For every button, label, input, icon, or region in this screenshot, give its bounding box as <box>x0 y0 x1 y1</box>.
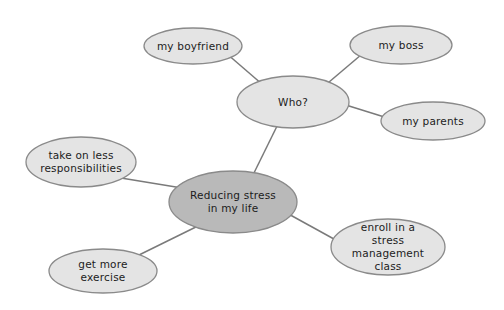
node-exercise[interactable]: get moreexercise <box>49 249 157 293</box>
mind-map: Reducing stressin my lifeWho?my boyfrien… <box>0 0 504 310</box>
node-parents[interactable]: my parents <box>381 102 485 140</box>
mind-map-canvas: Reducing stressin my lifeWho?my boyfrien… <box>0 0 504 310</box>
node-boss[interactable]: my boss <box>350 26 452 64</box>
node-responsibilities[interactable]: take on lessresponsibilities <box>26 137 136 187</box>
boss-label: my boss <box>378 39 423 51</box>
edge-center-exercise <box>139 223 204 255</box>
parents-label: my parents <box>402 115 464 127</box>
exercise-label: get moreexercise <box>78 258 127 283</box>
boyfriend-label: my boyfriend <box>157 40 229 52</box>
responsibilities-label: take on lessresponsibilities <box>40 149 122 174</box>
who-label: Who? <box>278 96 308 108</box>
node-center[interactable]: Reducing stressin my life <box>169 171 297 233</box>
edge-responsibilities-center <box>121 178 182 188</box>
node-boyfriend[interactable]: my boyfriend <box>144 28 242 64</box>
node-who[interactable]: Who? <box>237 76 349 128</box>
node-enroll[interactable]: enroll in astressmanagementclass <box>331 219 445 275</box>
